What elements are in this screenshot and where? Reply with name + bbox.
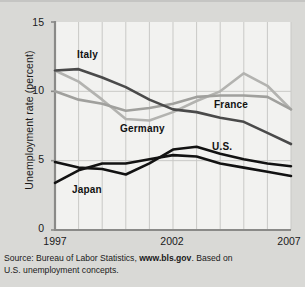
y-axis-title: Unemployment rate (percent) (23, 20, 35, 220)
x-tick-label-2007: 2007 (264, 235, 305, 247)
series-label-france: France (214, 99, 248, 110)
source-note-prefix: Source: Bureau of Labor Statistics, (4, 253, 139, 263)
x-tick-label-1997: 1997 (30, 235, 80, 247)
source-note: Source: Bureau of Labor Statistics, www.… (4, 252, 300, 277)
unemployment-rate-chart-figure: Unemployment rate (percent) 15 10 5 0 19… (0, 0, 305, 287)
source-note-line2: U.S. unemployment concepts. (4, 265, 119, 275)
source-note-suffix: . Based on (191, 253, 232, 263)
y-tick-label-10: 10 (18, 84, 44, 96)
y-tick-label-5: 5 (18, 153, 44, 165)
series-label-italy: Italy (77, 49, 98, 60)
y-tick-label-15: 15 (18, 16, 44, 28)
series-label-japan: Japan (72, 184, 102, 195)
series-label-germany: Germany (120, 123, 165, 134)
source-note-url: www.bls.gov (139, 253, 191, 263)
series-label-us: U.S. (212, 141, 232, 152)
y-tick-label-0: 0 (18, 222, 44, 234)
x-tick-label-2002: 2002 (147, 235, 197, 247)
